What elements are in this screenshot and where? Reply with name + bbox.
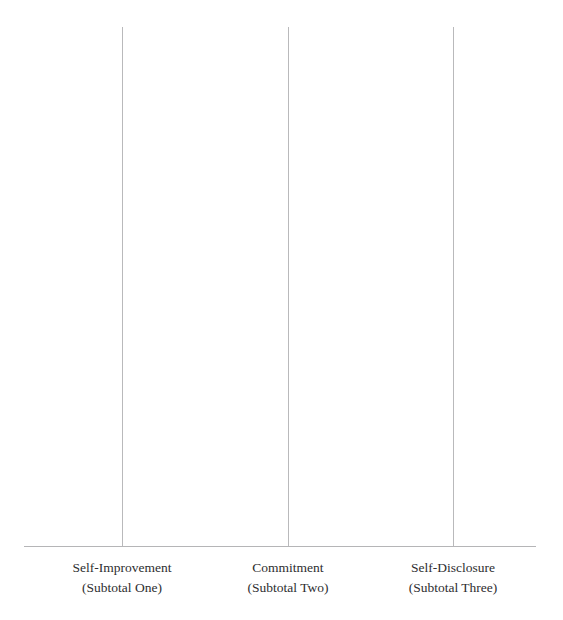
category-gridline-3 xyxy=(453,27,454,546)
category-sublabel: (Subtotal Three) xyxy=(363,578,543,598)
category-name: Commitment xyxy=(252,560,323,575)
y-axis-tick-label: 40 xyxy=(0,37,20,49)
category-gridline-2 xyxy=(288,27,289,546)
y-axis-tick-label: 10 xyxy=(0,399,20,411)
chart-title xyxy=(36,0,216,6)
x-axis: Self-Improvement(Subtotal One)Commitment… xyxy=(0,558,563,614)
y-axis-tick-label: 35 xyxy=(0,97,20,109)
x-axis-category-label: Self-Disclosure(Subtotal Three) xyxy=(363,558,543,598)
x-axis-category-label: Commitment(Subtotal Two) xyxy=(198,558,378,598)
category-gridline-1 xyxy=(122,27,123,546)
category-sublabel: (Subtotal Two) xyxy=(198,578,378,598)
y-axis: 4035302520151050 xyxy=(0,0,24,620)
y-axis-tick-label: 20 xyxy=(0,278,20,290)
category-name: Self-Improvement xyxy=(73,560,172,575)
category-sublabel: (Subtotal One) xyxy=(32,578,212,598)
plot-area xyxy=(24,27,536,546)
y-axis-tick-label: 0 xyxy=(0,519,20,531)
y-axis-tick-label: 25 xyxy=(0,218,20,230)
bar-chart-figure: 4035302520151050 Self-Improvement(Subtot… xyxy=(0,0,563,620)
y-axis-tick-label: 5 xyxy=(0,459,20,471)
x-axis-category-label: Self-Improvement(Subtotal One) xyxy=(32,558,212,598)
y-axis-tick-label: 30 xyxy=(0,158,20,170)
x-axis-line xyxy=(24,546,536,547)
y-axis-tick-label: 15 xyxy=(0,338,20,350)
category-name: Self-Disclosure xyxy=(411,560,495,575)
